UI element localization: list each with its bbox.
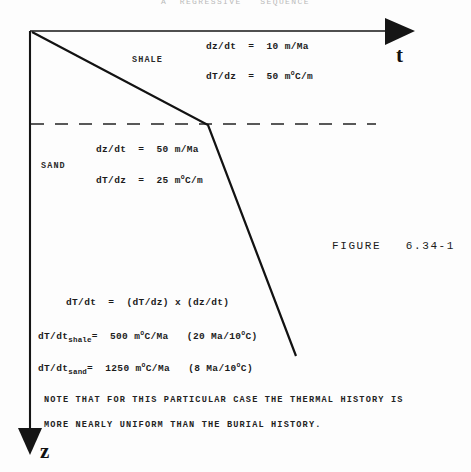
shale-geothermal-gradient-equation: dT/dz = 50 moC/m (206, 72, 313, 82)
time-axis-label: t (396, 44, 403, 67)
depth-axis-label: z (40, 440, 49, 463)
layer-label-shale: SHALE (132, 56, 163, 65)
shale-gradient-pre: dT/dz = 50 m (206, 71, 291, 82)
sand-heating-rate-equation: dT/dtsand= 1250 moC/Ma (8 Ma/10oC) (38, 364, 253, 374)
sand-eq-rhs-post: C) (241, 363, 253, 374)
figure-caption: FIGURE 6.34-1 (332, 240, 455, 252)
sand-gradient-pre: dT/dz = 25 m (96, 175, 181, 186)
shale-eq-rhs-pre: = 500 m (92, 331, 140, 342)
shale-eq-subscript: shale (68, 336, 92, 344)
sand-eq-rhs-mid: C/Ma (8 Ma/10 (146, 363, 237, 374)
note-line-1: NOTE THAT FOR THIS PARTICULAR CASE THE T… (44, 396, 404, 405)
shale-eq-lhs: dT/dt (38, 331, 68, 342)
sand-burial-rate-equation: dz/dt = 50 m/Ma (96, 145, 199, 155)
sand-geothermal-gradient-equation: dT/dz = 25 moC/m (96, 176, 203, 186)
sand-eq-lhs: dT/dt (38, 363, 68, 374)
layer-label-sand: SAND (41, 162, 66, 171)
sand-eq-rhs-pre: = 1250 m (87, 363, 141, 374)
note-line-2: MORE NEARLY UNIFORM THAN THE BURIAL HIST… (44, 421, 322, 430)
depth-axis-arrowhead (18, 428, 42, 455)
time-axis-arrowhead (385, 18, 415, 45)
shale-heating-rate-equation: dT/dtshale= 500 moC/Ma (20 Ma/10oC) (38, 332, 258, 342)
sand-gradient-post: C/m (185, 175, 203, 186)
figure-page: A REGRESSIVE SEQUENCE t z SHALE SAND dz/… (0, 0, 471, 472)
shale-eq-rhs-post: C) (246, 331, 258, 342)
sand-eq-subscript: sand (68, 368, 87, 376)
shale-burial-rate-equation: dz/dt = 10 m/Ma (206, 42, 309, 52)
shale-gradient-post: C/m (295, 71, 313, 82)
master-equation: dT/dt = (dT/dz) x (dz/dt) (66, 298, 229, 308)
shale-eq-rhs-mid: C/Ma (20 Ma/10 (144, 331, 241, 342)
